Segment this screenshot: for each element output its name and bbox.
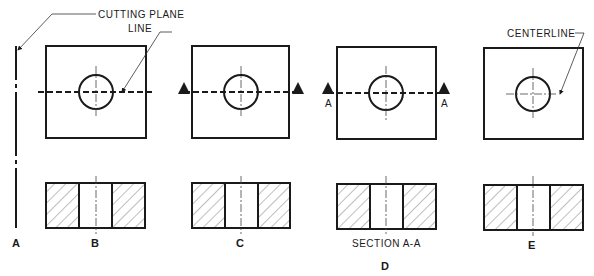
view-label-b: B xyxy=(91,237,99,249)
view-b-section xyxy=(46,176,145,234)
view-label-d: D xyxy=(381,260,389,272)
view-b-top xyxy=(38,46,154,138)
section-caption: SECTION A-A xyxy=(352,238,421,249)
view-e-top xyxy=(484,48,583,139)
view-d-section xyxy=(337,176,436,234)
view-e-section xyxy=(484,176,583,236)
view-label-a: A xyxy=(12,237,20,249)
centerline-leader xyxy=(560,33,584,94)
view-label-c: C xyxy=(236,237,244,249)
cut-label-a-right: A xyxy=(441,98,448,109)
cutting-plane-leader-a xyxy=(18,14,96,50)
view-label-e: E xyxy=(528,239,535,251)
cut-label-a-left: A xyxy=(325,98,332,109)
view-c-section xyxy=(192,176,290,234)
cutting-plane-label-line1: CUTTING PLANE xyxy=(98,9,185,20)
view-c-top xyxy=(184,46,298,138)
centerline-label: CENTERLINE xyxy=(507,28,575,39)
cutting-plane-label-line2: LINE xyxy=(128,23,152,34)
sectioning-diagram: CUTTING PLANE LINE CENTERLINE A B C SECT… xyxy=(0,0,594,276)
view-d-top xyxy=(328,47,444,139)
